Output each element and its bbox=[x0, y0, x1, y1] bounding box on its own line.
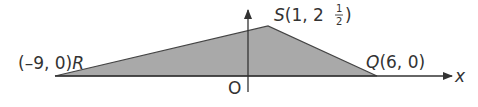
point-s-fraction-den: 2 bbox=[336, 16, 342, 27]
origin-label: O bbox=[228, 78, 241, 98]
point-s-fraction-num: 1 bbox=[336, 3, 342, 14]
point-s-label: S(1, 2 bbox=[274, 5, 324, 25]
x-axis-label: x bbox=[454, 66, 466, 86]
point-q-label: Q(6, 0) bbox=[366, 52, 425, 72]
point-s-close-paren: ) bbox=[345, 5, 352, 25]
coordinate-diagram: (–9, 0)R S(1, 2 1 2 ) Q(6, 0) x O bbox=[0, 0, 478, 107]
triangle-rsq bbox=[55, 26, 377, 76]
point-r-label: (–9, 0)R bbox=[18, 53, 84, 73]
